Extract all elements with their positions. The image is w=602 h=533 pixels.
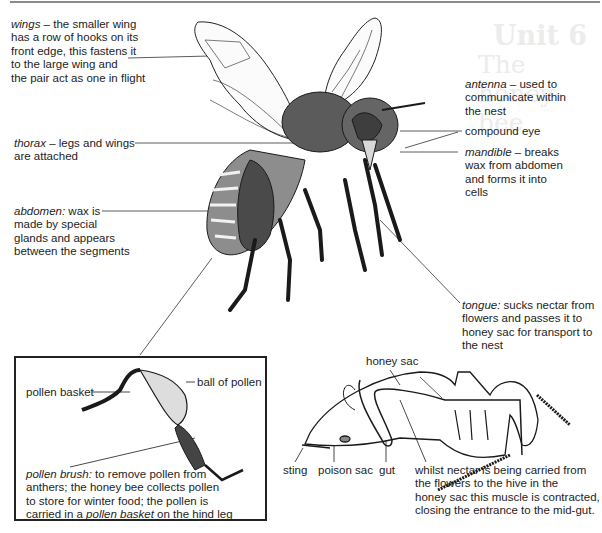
line: the flowers to the hive in the <box>415 477 558 489</box>
bee-cross-section-drawing <box>0 0 602 533</box>
poison-sac-label: poison sac <box>318 464 373 477</box>
sting-label: sting <box>283 464 307 477</box>
line: honey sac this muscle is contracted, <box>415 491 600 503</box>
honey-sac-label: honey sac <box>366 355 418 368</box>
line: closing the entrance to the mid-gut. <box>415 504 595 516</box>
gut-label: gut <box>379 464 395 477</box>
muscle-note: whilst nectar is being carried from the … <box>415 464 600 518</box>
line: whilst nectar is being carried from <box>415 464 586 476</box>
